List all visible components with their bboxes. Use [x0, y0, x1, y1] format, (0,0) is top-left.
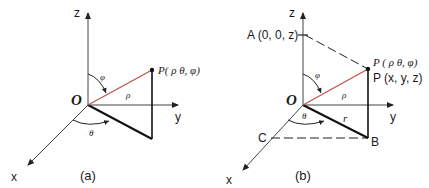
- point-P: [150, 68, 154, 72]
- z-axis-label: z: [74, 6, 80, 20]
- origin-label: O: [71, 92, 82, 108]
- phi-label: φ: [100, 72, 105, 82]
- radius-line: [303, 69, 368, 105]
- x-axis-label: x: [11, 170, 17, 184]
- panel-a-caption: (a): [80, 168, 96, 183]
- r-label: r: [343, 112, 348, 124]
- x-axis: [28, 105, 88, 165]
- panel-a: z y x O P( ρ θ, φ) ρ φ θ (a): [11, 6, 200, 184]
- point-label-spherical: P ( ρ θ, φ): [372, 56, 418, 69]
- projection-line: [88, 105, 152, 139]
- theta-label: θ: [89, 128, 94, 138]
- panel-b: z y x O A (0, 0, z) P ( ρ θ, φ) P (x, y,…: [226, 6, 423, 187]
- rho-label: ρ: [125, 90, 131, 100]
- panel-b-caption: (b): [295, 168, 311, 183]
- C-label: C: [258, 131, 267, 145]
- point-label-cartesian: P (x, y, z): [373, 71, 423, 85]
- dashed-A-P: [305, 35, 368, 69]
- rho-label: ρ: [341, 90, 347, 100]
- y-axis-label: y: [390, 110, 396, 124]
- radius-line: [88, 70, 152, 105]
- theta-label: θ: [302, 111, 307, 121]
- theta-arc: [73, 120, 109, 124]
- B-label: B: [371, 135, 379, 149]
- phi-label: φ: [315, 70, 320, 80]
- point-label: P( ρ θ, φ): [157, 64, 200, 77]
- A-label: A (0, 0, z): [247, 28, 298, 42]
- z-axis-label: z: [289, 6, 295, 20]
- r-line: [303, 105, 368, 138]
- origin-label: O: [286, 92, 297, 108]
- point-P: [366, 67, 370, 71]
- x-axis-label: x: [226, 173, 232, 187]
- y-axis-label: y: [175, 110, 181, 124]
- spherical-coordinates-figure: z y x O P( ρ θ, φ) ρ φ θ (a) z: [0, 0, 429, 188]
